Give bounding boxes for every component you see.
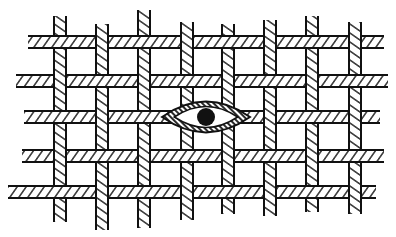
vertical-strip bbox=[222, 149, 234, 163]
vertical-strip bbox=[138, 149, 150, 163]
vertical-strip bbox=[222, 74, 234, 88]
vertical-strip bbox=[181, 35, 193, 49]
vertical-strip bbox=[264, 110, 276, 124]
vertical-strip bbox=[96, 24, 108, 230]
vertical-strip bbox=[349, 185, 361, 199]
vertical-strip bbox=[138, 74, 150, 88]
vertical-strip bbox=[264, 35, 276, 49]
vertical-strip bbox=[349, 35, 361, 49]
horizontal-strip bbox=[16, 75, 388, 87]
vertical-strip bbox=[96, 185, 108, 199]
vertical-strip bbox=[306, 74, 318, 88]
horizontal-strip bbox=[22, 150, 384, 162]
vertical-strip bbox=[96, 110, 108, 124]
woven-grid-diagram bbox=[0, 0, 396, 237]
horizontal-strip bbox=[28, 36, 384, 48]
eye-icon bbox=[162, 102, 250, 133]
vertical-strip bbox=[54, 149, 66, 163]
vertical-strip bbox=[54, 74, 66, 88]
vertical-strip bbox=[264, 185, 276, 199]
eye-pupil bbox=[197, 108, 215, 126]
vertical-strip bbox=[349, 110, 361, 124]
vertical-strip bbox=[181, 185, 193, 199]
vertical-strip bbox=[306, 149, 318, 163]
vertical-strip bbox=[96, 35, 108, 49]
